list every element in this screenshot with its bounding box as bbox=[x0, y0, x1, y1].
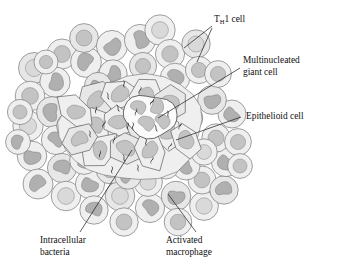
label-giant-cell-line2: giant cell bbox=[243, 67, 278, 77]
label-macrophage-line2: macrophage bbox=[166, 247, 212, 257]
label-epithelioid-cell-text: Epithelioid cell bbox=[246, 111, 304, 121]
activated-macrophage-cell bbox=[210, 176, 238, 204]
activated-macrophage-cell bbox=[161, 181, 191, 211]
th1-lymphocyte-cell bbox=[225, 129, 252, 156]
th1-lymphocyte-cell bbox=[164, 208, 192, 236]
th1-lymphocyte-cell bbox=[228, 154, 253, 179]
th1-lymphocyte-cell bbox=[182, 30, 210, 58]
label-epithelioid-cell: Epithelioid cell bbox=[246, 111, 304, 121]
th1-lymphocyte-cell bbox=[34, 50, 58, 74]
activated-macrophage-cell bbox=[198, 86, 227, 115]
granuloma-figure: TH1 cell Multinucleated giant cell Epith… bbox=[0, 0, 337, 267]
label-macrophage-line1: Activated bbox=[166, 235, 203, 245]
label-th1-cell: TH1 cell bbox=[214, 14, 245, 25]
activated-macrophage-cell bbox=[96, 30, 127, 61]
th1-lymphocyte-cell bbox=[205, 61, 232, 88]
th1-lymphocyte-cell bbox=[110, 208, 138, 236]
granuloma-illustration: TH1 cell Multinucleated giant cell Epith… bbox=[0, 0, 337, 267]
th1-lymphocyte-cell bbox=[7, 99, 32, 124]
th1-lymphocyte-cell bbox=[70, 24, 99, 53]
label-bacteria-line1: Intracellular bbox=[40, 235, 87, 245]
activated-macrophage-cell bbox=[135, 193, 164, 222]
label-th1-cell-text: TH1 cell bbox=[214, 14, 245, 25]
label-bacteria-line2: bacteria bbox=[40, 247, 71, 257]
activated-macrophage-cell bbox=[6, 130, 31, 155]
label-giant-cell-line1: Multinucleated bbox=[243, 55, 300, 65]
